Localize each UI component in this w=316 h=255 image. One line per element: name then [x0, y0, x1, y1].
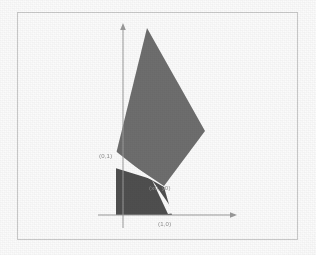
label-unit-y: (0,1): [99, 153, 112, 159]
y-axis-arrowhead: [120, 23, 126, 30]
label-unit-x: (1,0): [158, 221, 171, 227]
label-image-point: (x0, y0): [149, 185, 171, 191]
x-axis-arrowhead: [230, 212, 237, 218]
figure-page: (0,1) (x0, y0) (1,0): [0, 0, 316, 255]
diagram-canvas: [0, 0, 316, 255]
